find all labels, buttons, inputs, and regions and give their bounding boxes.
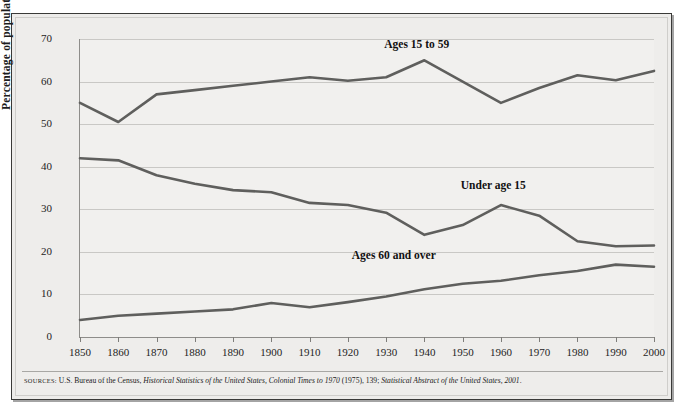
x-tick bbox=[577, 337, 578, 342]
x-tick bbox=[616, 337, 617, 342]
x-tick bbox=[539, 337, 540, 342]
y-tick-label: 30 bbox=[12, 203, 52, 214]
x-tick bbox=[80, 337, 81, 342]
source-title-2: Statistical Abstract of the United State… bbox=[381, 376, 519, 385]
x-tick bbox=[386, 337, 387, 342]
series-line-under-age-15 bbox=[80, 158, 654, 246]
y-tick-label: 10 bbox=[12, 288, 52, 299]
source-text-1: U.S. Bureau of the Census, bbox=[57, 376, 143, 385]
y-tick-label: 50 bbox=[12, 118, 52, 129]
x-tick bbox=[348, 337, 349, 342]
x-tick bbox=[233, 337, 234, 342]
figure-frame: Percentage of population 010203040506070… bbox=[11, 13, 672, 400]
y-tick-label: 60 bbox=[12, 76, 52, 87]
x-tick-label: 2000 bbox=[629, 346, 679, 358]
x-tick bbox=[654, 337, 655, 342]
source-divider bbox=[22, 371, 663, 372]
x-tick bbox=[118, 337, 119, 342]
chart-container: Percentage of population 010203040506070… bbox=[12, 14, 673, 401]
y-tick-label: 70 bbox=[12, 33, 52, 44]
plot-area: 010203040506070 185018601870188018901900… bbox=[79, 39, 654, 338]
series-label-under-age-15: Under age 15 bbox=[461, 179, 526, 191]
x-tick bbox=[424, 337, 425, 342]
source-title-1: Historical Statistics of the United Stat… bbox=[143, 376, 340, 385]
series-label-ages-15-to-59: Ages 15 to 59 bbox=[384, 38, 449, 50]
y-tick-label: 40 bbox=[12, 161, 52, 172]
source-label: SOURCES: bbox=[24, 377, 57, 384]
x-tick bbox=[310, 337, 311, 342]
x-tick bbox=[271, 337, 272, 342]
y-tick-label: 20 bbox=[12, 246, 52, 257]
source-text-3: . bbox=[520, 376, 522, 385]
figure-page: Percentage of population 010203040506070… bbox=[0, 0, 689, 414]
y-axis-title: Percentage of population bbox=[0, 0, 12, 110]
y-tick-label: 0 bbox=[12, 331, 52, 342]
x-tick bbox=[157, 337, 158, 342]
x-tick bbox=[463, 337, 464, 342]
series-lines bbox=[80, 39, 654, 337]
x-tick bbox=[195, 337, 196, 342]
source-note: SOURCES: U.S. Bureau of the Census, Hist… bbox=[24, 376, 664, 386]
source-text-2: (1975), 139; bbox=[340, 376, 381, 385]
series-label-ages-60-and-over: Ages 60 and over bbox=[352, 249, 436, 261]
series-line-ages-60-and-over bbox=[80, 265, 654, 320]
series-line-ages-15-to-59 bbox=[80, 60, 654, 122]
x-tick bbox=[501, 337, 502, 342]
